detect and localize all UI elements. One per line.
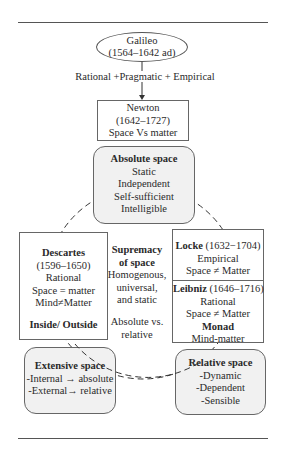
extensive-space-node: Extensive space -Internal → absolute -Ex… — [24, 347, 116, 414]
arrow-label: Rational +Pragmatic + Empirical — [60, 71, 230, 84]
absolute-space-node: Absolute space Static Independent Self-s… — [93, 146, 195, 224]
galileo-dates: (1564–1642 ad) — [97, 47, 187, 59]
locke-name: Locke — [176, 240, 203, 251]
leibniz-name: Leibniz — [173, 283, 207, 294]
leibniz-dates: (1646–1716) — [209, 283, 263, 294]
leibniz-section: Leibniz (1646–1716) Rational Space ≠ Mat… — [173, 281, 263, 346]
newton-dates: (1642–1727) — [98, 115, 188, 128]
descartes-node: Descartes (1596–1650) Rational Space = m… — [19, 232, 108, 340]
supremacy-of-space: Supremacy of space Homogenous, universal… — [107, 244, 167, 341]
newton-name: Newton — [98, 102, 188, 115]
newton-node: Newton (1642–1727) Space Vs matter — [97, 100, 189, 141]
absolute-space-title: Absolute space — [94, 153, 194, 166]
galileo-node: Galileo (1564–1642 ad) — [96, 32, 188, 62]
locke-leibniz-node: Locke (1632−1704) Empirical Space ≠ Matt… — [172, 229, 264, 343]
relative-space-title: Relative space — [176, 357, 265, 370]
descartes-footer: Inside/ Outside — [20, 319, 107, 332]
galileo-name: Galileo — [97, 35, 187, 47]
descartes-name: Descartes — [20, 247, 107, 260]
extensive-space-title: Extensive space — [25, 360, 115, 373]
newton-note: Space Vs matter — [98, 127, 188, 140]
leibniz-concept: Monad — [173, 321, 263, 334]
locke-dates: (1632−1704) — [206, 240, 261, 251]
descartes-dates: (1596–1650) — [20, 260, 107, 273]
relative-space-node: Relative space -Dynamic -Dependent -Sens… — [175, 349, 266, 415]
locke-section: Locke (1632−1704) Empirical Space ≠ Matt… — [173, 230, 263, 281]
